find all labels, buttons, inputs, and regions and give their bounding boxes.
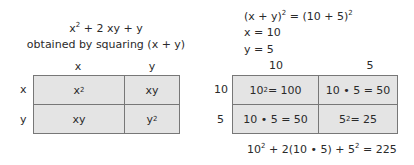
- caption: obtained by squaring (x + y): [27, 39, 185, 51]
- term: + 2 xy + y: [80, 22, 142, 35]
- cell: 52 = 25: [319, 105, 397, 133]
- result-equation: 102 + 2(10 • 5) + 52 = 225: [247, 144, 397, 156]
- cell-x2: x2: [34, 76, 125, 105]
- equation: (x + y)2 = (10 + 5)2: [244, 11, 353, 23]
- cell: 10 • 5 = 50: [319, 76, 397, 105]
- y-definition: y = 5: [244, 44, 274, 56]
- row-header: 10: [214, 84, 228, 96]
- row-header: x: [20, 84, 27, 96]
- left-table: x2 xy xy y2: [33, 75, 180, 134]
- row-header: 5: [217, 114, 224, 126]
- cell-xy: xy: [125, 76, 179, 105]
- expanded-expression: x2 + 2 xy + y: [69, 23, 142, 35]
- cell: 102 = 100: [233, 76, 319, 105]
- cell-xy: xy: [34, 105, 125, 133]
- col-header: y: [149, 61, 156, 73]
- col-header: 10: [269, 60, 283, 72]
- cell: 10 • 5 = 50: [233, 105, 319, 133]
- row-header: y: [20, 114, 27, 126]
- col-header: x: [75, 61, 82, 73]
- right-table: 102 = 100 10 • 5 = 50 10 • 5 = 50 52 = 2…: [232, 75, 398, 134]
- col-header: 5: [367, 60, 374, 72]
- cell-y2: y2: [125, 105, 179, 133]
- x-definition: x = 10: [244, 27, 281, 39]
